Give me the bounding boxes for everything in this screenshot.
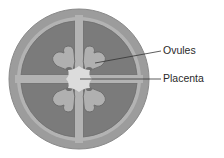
ovules-label: Ovules	[163, 44, 196, 56]
placenta-label: Placenta	[163, 72, 204, 84]
